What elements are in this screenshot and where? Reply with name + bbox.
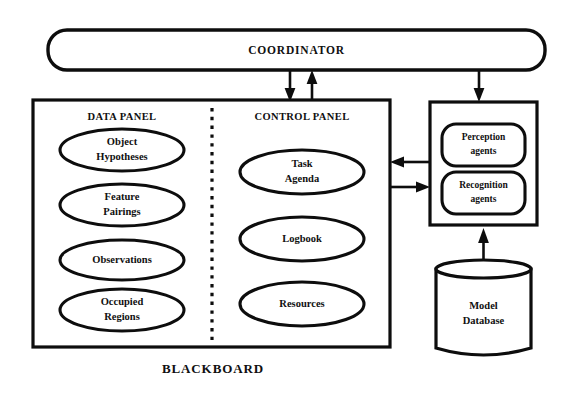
- node-label-line1: Occupied: [101, 296, 144, 307]
- data-panel-title: DATA PANEL: [87, 111, 156, 122]
- node-ellipse: [240, 150, 364, 194]
- diagram-canvas: COORDINATOR DATA PANEL Object Hypothese: [0, 0, 572, 401]
- node-ellipse: [60, 289, 184, 331]
- arrow-blackboard-to-agents: [390, 182, 430, 193]
- node-ellipse: [60, 184, 184, 226]
- database-cylinder-top: [436, 260, 531, 278]
- arrow-agents-to-blackboard: [390, 157, 430, 168]
- node-task-agenda[interactable]: Task Agenda: [240, 150, 364, 194]
- database-label-line2: Database: [463, 315, 505, 326]
- agent-rounded-box: [442, 172, 525, 214]
- arrow-coordinator-to-agents: [474, 70, 485, 102]
- node-label-line2: Regions: [104, 311, 140, 322]
- node-label-line2: Agenda: [285, 173, 320, 184]
- arrow-coordinator-to-control: [285, 70, 296, 102]
- node-label-line1: Task: [291, 158, 312, 169]
- database-label-line1: Model: [469, 300, 498, 311]
- node-label-line2: Hypotheses: [96, 151, 147, 162]
- coordinator-label: COORDINATOR: [248, 44, 345, 56]
- control-panel-title: CONTROL PANEL: [254, 111, 349, 122]
- node-resources[interactable]: Resources: [240, 282, 364, 326]
- node-logbook[interactable]: Logbook: [240, 217, 364, 261]
- node-label-line1: Resources: [279, 298, 324, 309]
- node-label-line1: Logbook: [282, 233, 322, 244]
- node-label-line2: Pairings: [103, 206, 140, 217]
- agent-label-line2: agents: [471, 146, 497, 156]
- node-feature-pairings[interactable]: Feature Pairings: [60, 184, 184, 226]
- data-panel: DATA PANEL Object Hypotheses Feature Pai…: [60, 111, 184, 331]
- arrow-control-to-coordinator: [307, 70, 318, 102]
- node-ellipse: [60, 129, 184, 171]
- agent-label-line2: agents: [471, 194, 497, 204]
- agent-label-line1: Recognition: [459, 180, 508, 190]
- node-object-hypotheses[interactable]: Object Hypotheses: [60, 129, 184, 171]
- blackboard-caption: BLACKBOARD: [162, 361, 264, 376]
- database-cylinder-body: [436, 269, 531, 355]
- agent-label-line1: Perception: [462, 132, 506, 142]
- agent-perception[interactable]: Perception agents: [442, 124, 525, 166]
- agent-recognition[interactable]: Recognition agents: [442, 172, 525, 214]
- coordinator-node[interactable]: COORDINATOR: [48, 30, 545, 70]
- node-label-line1: Observations: [92, 254, 152, 265]
- node-label-line1: Object: [107, 136, 138, 147]
- agent-rounded-box: [442, 124, 525, 166]
- model-database-node[interactable]: Model Database: [436, 260, 531, 355]
- node-occupied-regions[interactable]: Occupied Regions: [60, 289, 184, 331]
- agents-container[interactable]: Perception agents Recognition agents: [430, 102, 537, 225]
- node-label-line1: Feature: [105, 191, 140, 202]
- node-observations[interactable]: Observations: [60, 240, 184, 280]
